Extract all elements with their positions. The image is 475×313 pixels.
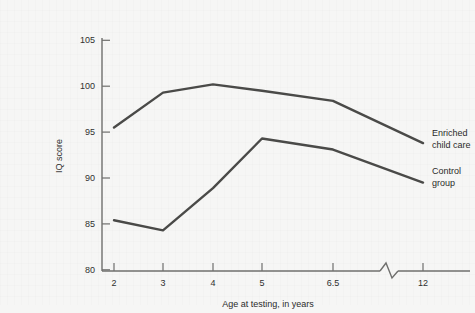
series-label-control-line1: Control bbox=[432, 166, 461, 176]
x-tick-label-5: 5 bbox=[259, 278, 264, 288]
series-label-enriched-line2: child care bbox=[432, 140, 471, 150]
axis-break-icon bbox=[380, 263, 398, 278]
x-axis-title: Age at testing, in years bbox=[222, 299, 314, 309]
y-tick-label-100: 100 bbox=[80, 81, 95, 91]
y-tick-label-85: 85 bbox=[85, 219, 95, 229]
x-tick-label-2: 2 bbox=[111, 278, 116, 288]
y-tick-label-95: 95 bbox=[85, 127, 95, 137]
y-tick-label-80: 80 bbox=[85, 265, 95, 275]
y-axis-ticks bbox=[102, 40, 110, 270]
x-tick-label-6-5: 6.5 bbox=[327, 278, 340, 288]
series-line-enriched-child-care bbox=[114, 84, 423, 143]
y-axis-tick-labels: 80 85 90 95 100 105 bbox=[80, 35, 95, 275]
y-tick-label-90: 90 bbox=[85, 173, 95, 183]
series-label-enriched-child-care: Enriched child care bbox=[432, 128, 471, 150]
x-tick-label-4: 4 bbox=[210, 278, 215, 288]
chart-canvas: 80 85 90 95 100 105 2 3 4 5 6.5 12 Age a… bbox=[40, 16, 475, 313]
x-tick-label-3: 3 bbox=[160, 278, 165, 288]
y-axis-title: IQ score bbox=[54, 139, 64, 173]
y-tick-label-105: 105 bbox=[80, 35, 95, 45]
series-label-control-group: Control group bbox=[432, 166, 461, 188]
iq-score-line-chart: 80 85 90 95 100 105 2 3 4 5 6.5 12 Age a… bbox=[40, 16, 435, 289]
x-tick-label-12: 12 bbox=[418, 278, 428, 288]
x-axis-ticks bbox=[114, 263, 423, 271]
x-axis-tick-labels: 2 3 4 5 6.5 12 bbox=[111, 278, 428, 288]
series-line-control-group bbox=[114, 139, 423, 231]
series-label-enriched-line1: Enriched bbox=[432, 128, 468, 138]
series-label-control-line2: group bbox=[432, 178, 455, 188]
